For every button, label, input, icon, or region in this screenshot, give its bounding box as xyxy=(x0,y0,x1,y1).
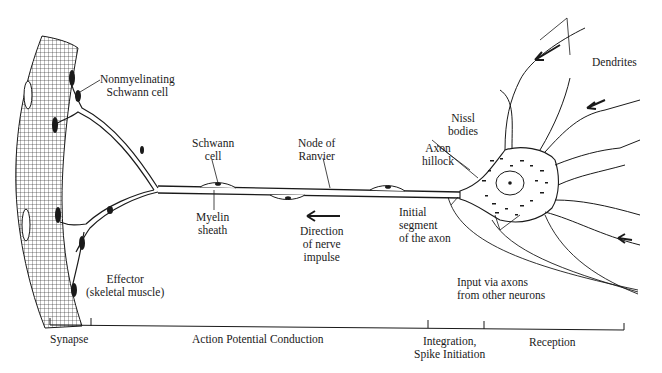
scale-bar xyxy=(50,318,624,330)
label-effector: Effector (skeletal muscle) xyxy=(86,273,164,299)
scale-label-integration: Integration, Spike Initiation xyxy=(414,335,485,361)
label-node-of-ranvier: Node of Ranvier xyxy=(298,137,335,163)
label-line: cell xyxy=(192,150,234,163)
scale-label-synapse: Synapse xyxy=(50,333,88,346)
neuron-diagram xyxy=(0,0,662,373)
scale-label-action-potential: Action Potential Conduction xyxy=(192,333,324,346)
label-nissl-bodies: Nissl bodies xyxy=(448,112,478,138)
label-input-axons: Input via axons from other neurons xyxy=(457,276,545,302)
label-line: Direction xyxy=(300,225,343,238)
label-line: Input via axons xyxy=(457,276,545,289)
cell-body xyxy=(460,148,558,222)
label-line: Nonmyelinating xyxy=(100,73,175,86)
label-line: of nerve xyxy=(300,238,343,251)
scale-label-reception: Reception xyxy=(529,336,576,349)
label-initial-segment: Initial segment of the axon xyxy=(399,206,451,245)
label-line: Effector xyxy=(86,273,164,286)
label-schwann-cell: Schwann cell xyxy=(192,137,234,163)
label-line: impulse xyxy=(300,251,343,264)
label-nonmyelinating-schwann: Nonmyelinating Schwann cell xyxy=(100,73,175,99)
label-line: hillock xyxy=(422,155,454,168)
label-axon-hillock: Axon hillock xyxy=(422,142,454,168)
label-line: (skeletal muscle) xyxy=(86,286,164,299)
label-line: from other neurons xyxy=(457,289,545,302)
direction-arrow-icon xyxy=(307,211,340,221)
label-direction: Direction of nerve impulse xyxy=(300,225,343,264)
label-line: Spike Initiation xyxy=(414,348,485,361)
label-line: Axon xyxy=(422,142,454,155)
myelinated-axon xyxy=(158,186,460,198)
label-line: Ranvier xyxy=(298,150,335,163)
label-line: bodies xyxy=(448,125,478,138)
label-line: Schwann cell xyxy=(100,86,175,99)
label-line: Myelin xyxy=(196,211,229,224)
label-line: segment xyxy=(399,219,451,232)
axon-terminal-branches xyxy=(56,78,158,288)
label-line: Schwann xyxy=(192,137,234,150)
label-line: Nissl xyxy=(448,112,478,125)
label-line: Node of xyxy=(298,137,335,150)
label-line: of the axon xyxy=(399,232,451,245)
label-myelin-sheath: Myelin sheath xyxy=(196,211,229,237)
label-line: sheath xyxy=(196,224,229,237)
label-line: Initial xyxy=(399,206,451,219)
label-line: Integration, xyxy=(414,335,485,348)
label-dendrites: Dendrites xyxy=(592,56,637,69)
